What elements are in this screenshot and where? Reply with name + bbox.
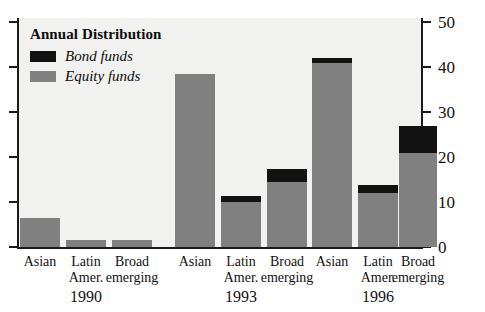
legend-swatch-icon bbox=[30, 51, 56, 62]
bar-latin-amer-1990 bbox=[66, 240, 106, 247]
y-axis-left-line bbox=[17, 18, 19, 249]
bar-broad-emerging-1990 bbox=[112, 240, 152, 247]
year-label-1990: 1990 bbox=[46, 288, 126, 306]
bar-segment-equity-broad-emerging-1996 bbox=[399, 153, 437, 248]
y-tick-label-20: 20 bbox=[438, 149, 455, 166]
category-label-line2: emerging bbox=[373, 270, 463, 286]
y-tick-right-50 bbox=[421, 21, 431, 23]
y-tick-right-30 bbox=[421, 111, 431, 113]
year-label-1993: 1993 bbox=[201, 288, 281, 306]
y-tick-left-30 bbox=[9, 111, 19, 113]
legend-item-label: Bond funds bbox=[65, 48, 133, 65]
category-label-line1: Broad bbox=[401, 254, 435, 269]
bar-segment-equity-latin-amer-1993 bbox=[221, 202, 261, 247]
bar-asian-1990 bbox=[20, 218, 60, 247]
bar-segment-bond-broad-emerging-1996 bbox=[399, 126, 437, 153]
y-tick-left-10 bbox=[9, 201, 19, 203]
category-label-line1: Broad bbox=[115, 254, 149, 269]
y-tick-left-40 bbox=[9, 66, 19, 68]
bar-segment-bond-broad-emerging-1993 bbox=[267, 169, 307, 182]
legend-item-bond-funds: Bond funds bbox=[30, 48, 195, 65]
bar-segment-equity-asian-1996 bbox=[312, 63, 352, 248]
legend-item-label: Equity funds bbox=[65, 68, 140, 85]
y-tick-label-40: 40 bbox=[438, 59, 455, 76]
y-tick-left-0 bbox=[9, 246, 19, 248]
y-tick-right-40 bbox=[421, 66, 431, 68]
category-label-line2: emerging bbox=[242, 270, 332, 286]
annual-distribution-chart: 01020304050 AsianLatinAmer.Broademerging… bbox=[0, 0, 485, 312]
bar-segment-equity-broad-emerging-1990 bbox=[112, 240, 152, 247]
legend-title: Annual Distribution bbox=[30, 26, 195, 43]
legend-item-equity-funds: Equity funds bbox=[30, 68, 195, 85]
x-axis-line bbox=[17, 247, 423, 249]
category-label-broad-emerging-1996: Broademerging bbox=[373, 254, 463, 286]
y-tick-label-10: 10 bbox=[438, 194, 455, 211]
bar-latin-amer-1996 bbox=[358, 185, 398, 247]
legend-swatch-icon bbox=[30, 71, 56, 82]
bar-broad-emerging-1993 bbox=[267, 169, 307, 247]
year-label-1996: 1996 bbox=[338, 288, 418, 306]
legend: Annual Distribution Bond fundsEquity fun… bbox=[30, 26, 195, 88]
category-label-line2: emerging bbox=[87, 270, 177, 286]
bar-latin-amer-1993 bbox=[221, 196, 261, 247]
y-tick-left-20 bbox=[9, 156, 19, 158]
y-tick-label-30: 30 bbox=[438, 104, 455, 121]
y-tick-label-0: 0 bbox=[438, 239, 447, 256]
bar-segment-equity-broad-emerging-1993 bbox=[267, 182, 307, 247]
bar-segment-equity-latin-amer-1990 bbox=[66, 240, 106, 247]
bar-broad-emerging-1996 bbox=[399, 126, 437, 248]
bar-asian-1996 bbox=[312, 58, 352, 247]
bar-segment-equity-asian-1993 bbox=[175, 74, 215, 247]
bar-segment-bond-latin-amer-1996 bbox=[358, 185, 398, 193]
bar-segment-equity-latin-amer-1996 bbox=[358, 193, 398, 247]
y-tick-left-50 bbox=[9, 21, 19, 23]
legend-items: Bond fundsEquity funds bbox=[30, 48, 195, 85]
bar-asian-1993 bbox=[175, 74, 215, 247]
y-tick-label-50: 50 bbox=[438, 14, 455, 31]
bar-segment-equity-asian-1990 bbox=[20, 218, 60, 247]
